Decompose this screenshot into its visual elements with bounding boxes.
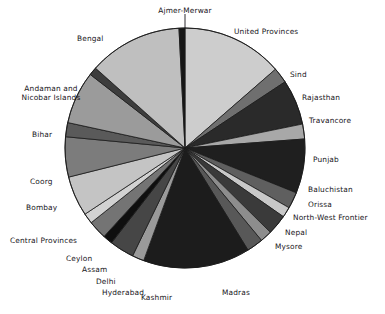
slice-label-travancore: Travancore xyxy=(309,116,381,125)
slice-label-orissa: Orissa xyxy=(308,200,368,209)
slice-label-north-west-frontier: North-West Frontier xyxy=(293,213,385,222)
slice-label-hyderabad: Hyderabad xyxy=(102,288,172,297)
slice-label-bihar: Bihar xyxy=(32,130,92,139)
pie-chart-figure: Ajmer-Merwar United Provinces Sind Rajas… xyxy=(0,0,385,314)
slice-label-united-provinces: United Provinces xyxy=(234,27,334,36)
slice-label-central-provinces: Central Provinces xyxy=(10,236,110,245)
slice-label-madras: Madras xyxy=(222,288,282,297)
slice-label-ceylon: Ceylon xyxy=(66,254,126,263)
slice-label-ajmer-merwar: Ajmer-Merwar xyxy=(135,6,235,15)
slice-label-coorg: Coorg xyxy=(30,177,90,186)
slice-label-mysore: Mysore xyxy=(275,242,335,251)
slice-label-assam: Assam xyxy=(82,265,142,274)
slice-label-bengal: Bengal xyxy=(77,34,137,43)
slice-label-andaman-line1: Andaman and xyxy=(8,84,94,93)
slice-label-bombay: Bombay xyxy=(26,203,96,212)
slice-label-sind: Sind xyxy=(290,70,350,79)
slice-label-delhi: Delhi xyxy=(96,277,156,286)
slice-label-rajasthan: Rajasthan xyxy=(302,93,372,102)
slice-label-punjab: Punjab xyxy=(313,155,373,164)
slice-label-baluchistan: Baluchistan xyxy=(308,185,383,194)
pie-slice-group xyxy=(65,28,305,268)
slice-label-nepal: Nepal xyxy=(285,228,345,237)
slice-label-andaman-line2: Nicobar Islands xyxy=(4,93,98,102)
